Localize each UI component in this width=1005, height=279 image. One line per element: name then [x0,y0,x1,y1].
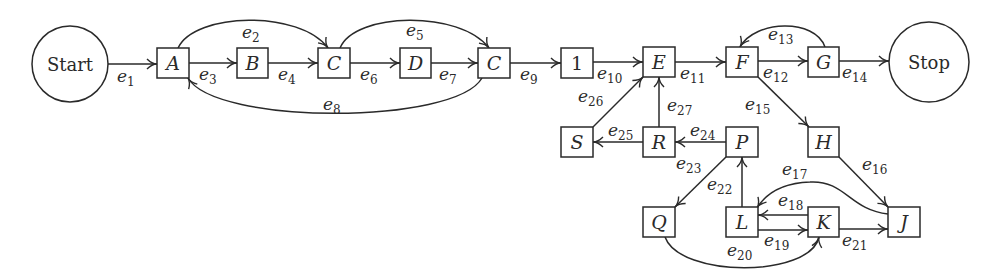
svg-text:G: G [816,51,831,73]
node-1: 1 [561,48,593,78]
svg-text:D: D [407,52,423,74]
edge-label-e23: e23 [676,153,701,176]
node-D: D [400,48,431,78]
flow-graph-diagram: Start Stop A B C D C 1 E F G S R P H Q L… [0,0,1005,279]
edge-label-e24: e24 [690,120,716,143]
edge-label-e12: e12 [763,62,788,85]
edge-label-e2: e2 [242,22,260,45]
edge-label-e20: e20 [727,240,752,263]
svg-text:C: C [487,52,502,74]
node-A: A [157,48,189,78]
svg-text:L: L [735,211,749,233]
svg-text:R: R [651,131,666,153]
svg-text:Q: Q [651,211,667,233]
start-label: Start [47,54,94,75]
edge-label-e7: e7 [439,64,457,87]
node-G: G [808,47,839,77]
node-E: E [643,47,675,77]
node-K: K [808,207,839,237]
terminal-start: Start [32,26,108,102]
edge-label-e17: e17 [782,159,807,182]
svg-text:B: B [245,52,260,74]
svg-text:S: S [570,131,583,153]
svg-text:H: H [814,131,832,153]
svg-text:F: F [734,51,749,73]
node-H: H [808,127,839,157]
edge-label-e18: e18 [778,190,803,213]
edge-label-e8: e8 [323,94,341,117]
node-P: P [726,127,758,157]
edge-label-e3: e3 [199,64,217,87]
edge-label-e15: e15 [745,94,770,117]
edge-label-e1: e1 [117,66,135,89]
node-R: R [643,127,675,157]
node-Q: Q [643,207,675,237]
edge-label-e26: e26 [578,86,603,109]
svg-text:C: C [327,52,342,74]
edge-label-e13: e13 [768,24,793,47]
nodes: A B C D C 1 E F G S R P H Q L K J [157,47,920,237]
edge-label-e25: e25 [608,120,633,143]
edge-label-e6: e6 [360,64,378,87]
node-B: B [237,48,268,78]
node-C1: C [318,48,350,78]
node-C2: C [478,48,510,78]
edge-label-e16: e16 [862,154,887,177]
terminal-stop: Stop [889,22,969,102]
svg-text:A: A [164,52,180,74]
edge-label-e10: e10 [597,63,622,86]
edge-label-e27: e27 [667,95,692,118]
edge-label-e14: e14 [842,62,868,85]
svg-text:K: K [815,211,832,233]
svg-text:1: 1 [571,52,583,74]
edge-label-e19: e19 [764,230,789,253]
edge-label-e11: e11 [680,63,705,86]
node-F: F [726,47,758,77]
svg-text:E: E [651,51,666,73]
edge-label-e22: e22 [707,174,732,197]
svg-text:P: P [735,131,750,153]
node-S: S [561,127,593,157]
node-L: L [726,207,758,237]
edge-label-e5: e5 [406,20,424,43]
edge-label-e4: e4 [278,64,296,87]
edge-label-e21: e21 [842,230,867,253]
edge-label-e9: e9 [520,64,538,87]
stop-label: Stop [908,52,950,73]
node-J: J [888,207,920,237]
